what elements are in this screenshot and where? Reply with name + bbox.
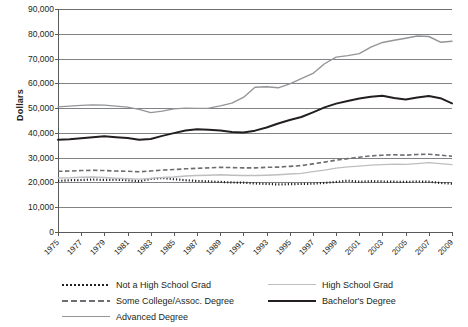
x-tick-mark bbox=[359, 232, 360, 236]
x-tick-mark bbox=[452, 232, 453, 236]
x-tick-mark bbox=[174, 232, 175, 236]
legend-label: Some College/Assoc. Degree bbox=[116, 294, 234, 308]
x-tick-mark bbox=[267, 232, 268, 236]
legend-label: High School Grad bbox=[322, 278, 393, 292]
legend-swatch bbox=[268, 300, 316, 302]
legend-swatch bbox=[62, 316, 110, 317]
x-tick-mark bbox=[128, 232, 129, 236]
legend-swatch bbox=[62, 300, 110, 302]
series-line bbox=[58, 96, 452, 140]
x-tick-mark bbox=[336, 232, 337, 236]
legend-label: Not a High School Grad bbox=[116, 278, 211, 292]
x-tick-mark bbox=[313, 232, 314, 236]
legend-swatch bbox=[268, 284, 316, 285]
series-line bbox=[58, 178, 452, 184]
chart-container: Dollars 90,00080,00070,00060,00050,00040… bbox=[0, 0, 468, 327]
series-line bbox=[58, 36, 452, 113]
x-tick-mark bbox=[290, 232, 291, 236]
x-tick-mark bbox=[104, 232, 105, 236]
legend-label: Advanced Degree bbox=[116, 310, 188, 324]
x-tick-mark bbox=[382, 232, 383, 236]
x-tick-mark bbox=[58, 232, 59, 236]
x-tick-mark bbox=[151, 232, 152, 236]
x-tick-mark bbox=[406, 232, 407, 236]
x-tick-mark bbox=[220, 232, 221, 236]
chart-legend: Not a High School GradSome College/Assoc… bbox=[0, 276, 468, 327]
x-tick-mark bbox=[243, 232, 244, 236]
x-tick-mark bbox=[429, 232, 430, 236]
series-line bbox=[58, 154, 452, 172]
x-tick-mark bbox=[197, 232, 198, 236]
legend-swatch bbox=[62, 284, 110, 286]
x-tick-mark bbox=[81, 232, 82, 236]
legend-label: Bachelor's Degree bbox=[322, 294, 396, 308]
